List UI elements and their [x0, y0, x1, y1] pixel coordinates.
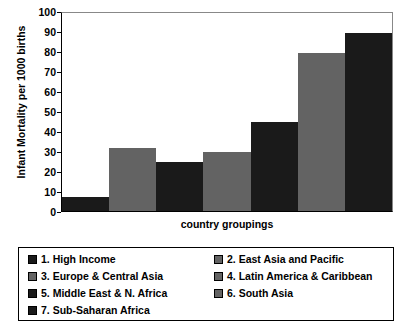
- legend-item: 7. Sub-Saharan Africa: [28, 302, 214, 319]
- y-axis-tick-label: 10: [44, 187, 56, 198]
- y-axis-tick-label: 50: [44, 107, 56, 118]
- bar: [109, 148, 156, 211]
- legend-item-label: 3. Europe & Central Asia: [41, 271, 163, 282]
- bar: [203, 152, 250, 211]
- y-axis-tick-label: 20: [44, 167, 56, 178]
- legend-item-label: 6. South Asia: [227, 288, 293, 299]
- legend-item-label: 2. East Asia and Pacific: [227, 254, 344, 265]
- x-axis-title: country groupings: [61, 218, 393, 230]
- legend: 1. High Income2. East Asia and Pacific3.…: [18, 247, 394, 321]
- bar: [62, 197, 109, 211]
- legend-items: 1. High Income2. East Asia and Pacific3.…: [19, 251, 393, 319]
- bar: [156, 162, 203, 212]
- legend-item: 1. High Income: [28, 251, 214, 268]
- legend-item-label: 7. Sub-Saharan Africa: [41, 305, 150, 316]
- legend-color-swatch: [214, 289, 223, 298]
- legend-color-swatch: [28, 289, 37, 298]
- plot-area: [61, 12, 393, 212]
- bar: [345, 33, 392, 211]
- y-axis-tick-label: 90: [44, 27, 56, 38]
- legend-color-swatch: [214, 272, 223, 281]
- legend-color-swatch: [28, 255, 37, 264]
- y-axis-tick-label: 100: [38, 7, 56, 18]
- legend-color-swatch: [28, 272, 37, 281]
- legend-item-label: 5. Middle East & N. Africa: [41, 288, 167, 299]
- legend-item: 3. Europe & Central Asia: [28, 268, 214, 285]
- bar-chart-figure: Infant Mortality per 1000 births 1009080…: [0, 0, 411, 238]
- bar: [298, 53, 345, 211]
- y-axis-tick-label: 0: [50, 207, 56, 218]
- y-axis-title: Infant Mortality per 1000 births: [15, 7, 27, 197]
- legend-item: 2. East Asia and Pacific: [214, 251, 400, 268]
- legend-item-label: 1. High Income: [41, 254, 116, 265]
- legend-color-swatch: [214, 255, 223, 264]
- y-axis-tick-label: 70: [44, 67, 56, 78]
- legend-item: 6. South Asia: [214, 285, 400, 302]
- y-axis-tick-label: 40: [44, 127, 56, 138]
- y-axis-tick-label: 80: [44, 47, 56, 58]
- y-axis-tick-label: 60: [44, 87, 56, 98]
- bars-layer: [62, 13, 392, 211]
- legend-color-swatch: [28, 306, 37, 315]
- legend-item-label: 4. Latin America & Caribbean: [227, 271, 373, 282]
- bar: [251, 122, 298, 211]
- y-axis-tick-labels: 1009080706050403020100: [30, 12, 56, 212]
- chart-page: Infant Mortality per 1000 births 1009080…: [0, 0, 411, 336]
- y-axis-tick-label: 30: [44, 147, 56, 158]
- legend-item: 5. Middle East & N. Africa: [28, 285, 214, 302]
- legend-item: 4. Latin America & Caribbean: [214, 268, 400, 285]
